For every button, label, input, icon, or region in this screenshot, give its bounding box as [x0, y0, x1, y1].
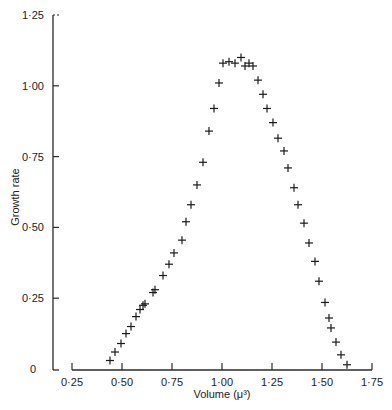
data-point-plus-icon: [170, 249, 178, 257]
data-point-plus-icon: [294, 201, 302, 209]
data-point-plus-icon: [315, 277, 323, 285]
data-point-plus-icon: [274, 134, 282, 142]
data-point-plus-icon: [280, 147, 288, 155]
data-point-plus-icon: [337, 351, 345, 359]
data-point-plus-icon: [311, 257, 319, 265]
y-tick-label: 1·00: [22, 80, 44, 92]
x-tick-label: 1·25: [261, 376, 283, 388]
data-point-plus-icon: [215, 79, 223, 87]
data-point-plus-icon: [117, 340, 125, 348]
y-tick-label: 0·25: [22, 292, 44, 304]
data-point-plus-icon: [159, 272, 167, 280]
y-axis-title: Growth rate: [9, 168, 21, 225]
data-point-plus-icon: [225, 58, 233, 66]
data-point-plus-icon: [210, 104, 218, 112]
data-point-plus-icon: [122, 330, 130, 338]
data-point-plus-icon: [141, 300, 149, 308]
data-point-plus-icon: [187, 201, 195, 209]
data-point-plus-icon: [259, 90, 267, 98]
x-tick-label: 1·75: [361, 376, 383, 388]
data-point-plus-icon: [127, 323, 135, 331]
data-point-plus-icon: [111, 348, 119, 356]
data-point-plus-icon: [332, 338, 340, 346]
data-point-plus-icon: [182, 218, 190, 226]
x-tick-label: 0·25: [61, 376, 83, 388]
data-point-plus-icon: [300, 219, 308, 227]
data-point-plus-icon: [106, 357, 114, 365]
growth-rate-chart: 00·250·500·751·001·250·250·500·751·001·2…: [0, 0, 392, 410]
data-point-plus-icon: [231, 59, 239, 67]
axes: 00·250·500·751·001·250·250·500·751·001·2…: [22, 9, 383, 388]
data-point-plus-icon: [193, 181, 201, 189]
y-tick-label: 0·50: [22, 221, 44, 233]
data-point-plus-icon: [290, 184, 298, 192]
y-tick-label: 0: [30, 363, 36, 375]
data-point-plus-icon: [305, 239, 313, 247]
x-tick-label: 0·75: [161, 376, 183, 388]
data-point-plus-icon: [254, 76, 262, 84]
x-tick-label: 1·50: [311, 376, 333, 388]
data-point-plus-icon: [269, 119, 277, 127]
data-point-plus-icon: [219, 59, 227, 67]
x-axis-title: Volume (μ³): [193, 388, 250, 400]
data-point-plus-icon: [205, 127, 213, 135]
data-point-plus-icon: [325, 314, 333, 322]
data-point-plus-icon: [327, 324, 335, 332]
data-point-plus-icon: [237, 53, 245, 61]
data-point-plus-icon: [178, 236, 186, 244]
data-point-plus-icon: [343, 361, 351, 369]
y-tick-label: 0·75: [22, 151, 44, 163]
data-points: [106, 53, 351, 368]
x-tick-label: 1·00: [211, 376, 233, 388]
data-point-plus-icon: [321, 298, 329, 306]
y-tick-label: 1·25: [22, 9, 44, 21]
data-point-plus-icon: [284, 164, 292, 172]
data-point-plus-icon: [263, 104, 271, 112]
data-point-plus-icon: [165, 260, 173, 268]
x-tick-label: 0·50: [111, 376, 133, 388]
data-point-plus-icon: [132, 313, 140, 321]
data-point-plus-icon: [199, 158, 207, 166]
